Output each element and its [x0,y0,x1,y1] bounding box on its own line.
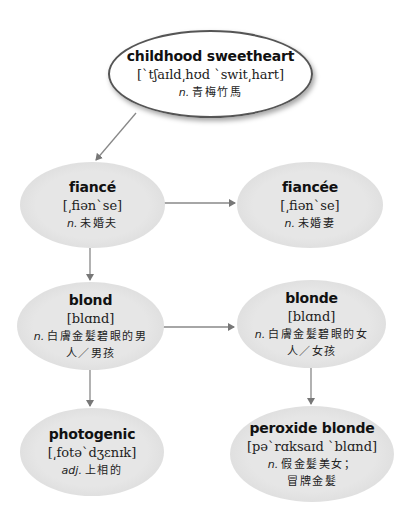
definition: adj.上相的 [62,462,123,479]
definition-text: 未婚妻 [298,217,336,230]
definition: n.白膚金髮碧眼的女 [255,326,368,343]
phonetic: [pəˋrɑksaɪd ˋblɑnd] [247,437,377,456]
part-of-speech: n. [179,86,189,99]
definition-text: 未婚夫 [80,217,118,230]
part-of-speech: adj. [62,464,82,477]
phonetic: [ˋtʃaɪld͵hʊd ˋswit͵hart] [137,65,284,84]
part-of-speech: n. [67,217,77,230]
term: photogenic [49,425,136,443]
definition: n.白膚金髮碧眼的男 [34,328,147,345]
term: childhood sweetheart [127,47,294,65]
definition-line-1: 假金髮美女； [281,458,356,471]
definition-line-2: 冒牌金髮 [287,473,337,490]
part-of-speech: n. [255,328,265,341]
node-fiance: fiancé [͵fiənˋse] n.未婚夫 [20,162,165,248]
arrow-sweetheart-to-fiance [96,113,136,160]
phonetic: [blɑnd] [67,309,115,328]
term: fiancée [282,178,338,196]
definition: n.未婚妻 [285,215,336,232]
part-of-speech: n. [285,217,295,230]
phonetic: [͵fotəˋdʒɛnɪk] [48,443,137,462]
term: fiancé [69,178,116,196]
part-of-speech: n. [268,458,278,471]
definition-text: 上相的 [85,464,123,477]
definition: n.未婚夫 [67,215,118,232]
definition: n.假金髮美女； [268,456,356,473]
term: blond [69,291,112,309]
definition: n.青梅竹馬 [179,84,242,101]
part-of-speech: n. [34,330,44,343]
node-peroxide-blonde: peroxide blonde [pəˋrɑksaɪd ˋblɑnd] n.假金… [230,406,394,502]
node-blond: blond [blɑnd] n.白膚金髮碧眼的男 人／男孩 [17,282,164,370]
phonetic: [blɑnd] [288,307,336,326]
node-childhood-sweetheart: childhood sweetheart [ˋtʃaɪld͵hʊd ˋswit͵… [108,30,313,118]
node-fiancee: fiancée [͵fiənˋse] n.未婚妻 [237,162,383,248]
node-blonde: blonde [blɑnd] n.白膚金髮碧眼的女 人／女孩 [237,280,386,368]
definition-line-2: 人／女孩 [287,343,337,360]
definition-line-1: 白膚金髮碧眼的女 [268,328,368,341]
phonetic: [͵fiənˋse] [280,196,339,215]
definition-line-1: 白膚金髮碧眼的男 [47,330,147,343]
definition-text: 青梅竹馬 [192,86,242,99]
definition-line-2: 人／男孩 [66,345,116,362]
phonetic: [͵fiənˋse] [63,196,122,215]
term: blonde [285,289,338,307]
node-photogenic: photogenic [͵fotəˋdʒɛnɪk] adj.上相的 [20,408,164,496]
vocabulary-diagram: childhood sweetheart [ˋtʃaɪld͵hʊd ˋswit͵… [0,0,403,521]
term: peroxide blonde [249,419,374,437]
